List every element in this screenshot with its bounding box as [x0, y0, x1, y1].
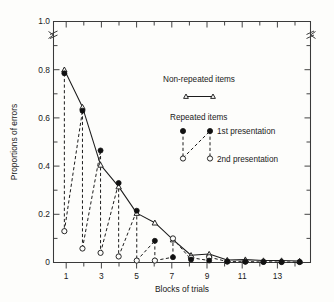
filled-circle-icon	[297, 260, 302, 265]
filled-circle-icon	[261, 260, 266, 265]
top-axis-ticks	[66, 22, 295, 28]
open-circle-icon	[98, 250, 103, 255]
y-axis-ticks	[54, 22, 60, 263]
x-tick-label-7: 7	[169, 271, 174, 281]
filled-circle-icon	[207, 128, 212, 133]
filled-circle-icon	[152, 238, 157, 243]
x-tick-label-1: 1	[64, 271, 69, 281]
open-circle-icon	[80, 246, 85, 251]
right-axis-ticks	[305, 46, 311, 263]
x-tick-label-5: 5	[134, 271, 139, 281]
filled-circle-icon	[116, 180, 121, 185]
filled-circle-icon	[170, 255, 175, 260]
y-tick-label-3: 0.6	[38, 113, 50, 123]
x-tick-labels: 1 3 5 7 9 11 13	[64, 271, 283, 281]
filled-circle-icon	[279, 260, 284, 265]
proportion-of-errors-line-chart: 0 0.2 0.4 0.6 0.8 1.0	[0, 0, 334, 302]
x-tick-label-9: 9	[205, 271, 210, 281]
frame-box	[54, 22, 311, 263]
chart-legend: Non-repeated items Repeated items 1st pr…	[163, 75, 278, 164]
legend-repeated-sample	[180, 128, 212, 161]
y-axis-title: Proportions of errors	[9, 104, 19, 180]
chart-figure: 0 0.2 0.4 0.6 0.8 1.0	[0, 0, 334, 302]
filled-circle-icon	[62, 71, 67, 76]
filled-circle-icon	[225, 259, 230, 264]
filled-circle-icon	[98, 148, 103, 153]
y-tick-label-4: 0.8	[38, 65, 50, 75]
open-circle-icon	[116, 254, 121, 259]
x-tick-label-11: 11	[238, 271, 247, 281]
open-triangle-icon	[184, 94, 189, 98]
open-triangle-icon	[211, 94, 216, 98]
filled-circle-icon	[243, 259, 248, 264]
x-tick-label-13: 13	[273, 271, 283, 281]
open-circle-icon	[180, 156, 185, 161]
y-tick-label-0: 0	[45, 257, 50, 267]
y-tick-labels: 0 0.2 0.4 0.6 0.8 1.0	[38, 16, 50, 267]
x-axis-ticks	[66, 263, 295, 269]
filled-circle-icon	[134, 208, 139, 213]
filled-circle-icon	[180, 128, 185, 133]
x-tick-label-3: 3	[99, 271, 104, 281]
filled-circle-icon	[189, 257, 194, 262]
legend-first-presentation-label: 1st presentation	[217, 127, 276, 136]
legend-second-presentation-label: 2nd presentation	[217, 155, 278, 164]
open-circle-icon	[134, 258, 139, 263]
legend-nonrepeated-sample	[184, 94, 216, 98]
open-circle-icon	[62, 229, 67, 234]
open-triangle-icon	[152, 220, 157, 225]
open-circle-icon	[152, 258, 157, 263]
legend-repeated-title: Repeated items	[170, 113, 227, 122]
y-tick-label-2: 0.4	[38, 161, 50, 171]
open-circle-icon	[170, 236, 175, 241]
legend-nonrepeated-title: Non-repeated items	[163, 75, 235, 84]
filled-circle-icon	[80, 108, 85, 113]
y-tick-label-1: 0.2	[38, 209, 50, 219]
data-series-layer	[62, 67, 303, 265]
y-tick-label-5: 1.0	[38, 16, 50, 26]
plot-frame	[54, 22, 311, 263]
filled-circle-icon	[207, 258, 212, 263]
open-circle-icon	[207, 156, 212, 161]
x-axis-title: Blocks of trials	[155, 284, 209, 294]
